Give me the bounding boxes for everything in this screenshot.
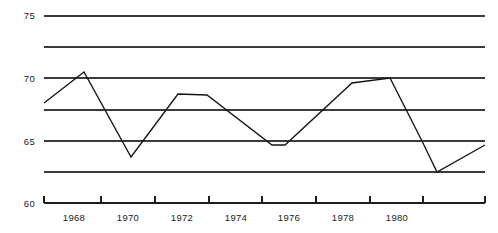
x-tick-label-1972: 1972 bbox=[171, 212, 193, 223]
line-chart: 75706560 1968197019721974197619781980 bbox=[0, 0, 498, 233]
series-1-line bbox=[44, 72, 485, 172]
x-tick-label-1976: 1976 bbox=[278, 212, 300, 223]
x-axis-tick-labels: 1968197019721974197619781980 bbox=[63, 212, 408, 223]
x-axis-tick-marks bbox=[101, 196, 485, 203]
x-tick-label-1978: 1978 bbox=[332, 212, 354, 223]
axis bbox=[44, 196, 485, 203]
y-tick-label-75: 75 bbox=[24, 10, 35, 21]
y-tick-label-65: 65 bbox=[24, 136, 35, 147]
y-tick-label-70: 70 bbox=[24, 73, 35, 84]
y-axis-tick-labels: 75706560 bbox=[24, 10, 35, 209]
data-series bbox=[44, 72, 485, 172]
gridlines bbox=[44, 16, 485, 172]
x-tick-label-1974: 1974 bbox=[225, 212, 247, 223]
x-tick-label-1970: 1970 bbox=[117, 212, 139, 223]
chart-canvas: 75706560 1968197019721974197619781980 bbox=[0, 0, 498, 233]
y-tick-label-60: 60 bbox=[24, 198, 35, 209]
x-tick-label-1968: 1968 bbox=[63, 212, 85, 223]
x-tick-label-1980: 1980 bbox=[386, 212, 408, 223]
